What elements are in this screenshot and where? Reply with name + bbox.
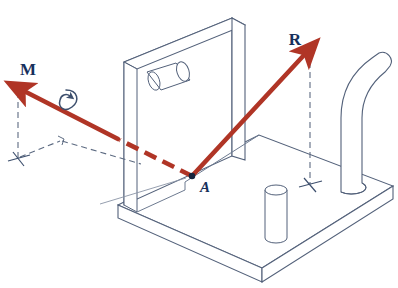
moment-curl-arrow (60, 90, 77, 109)
tick-marker-left (8, 152, 30, 166)
figure-canvas: M R A (0, 0, 398, 288)
bent-rod (341, 52, 391, 194)
moment-horizontal-trace (20, 141, 60, 157)
moment-curl-path (60, 90, 77, 109)
bracket-assembly (100, 18, 393, 282)
short-post-body (265, 190, 287, 243)
vertical-plate-side-face (232, 18, 245, 160)
trace-corner-tick (58, 136, 64, 145)
bent-rod-body (341, 52, 391, 194)
mechanics-figure: M R A (0, 0, 398, 288)
point-a-marker (189, 173, 196, 180)
point-a-label: A (199, 179, 210, 195)
moment-vector-shaft (24, 91, 118, 139)
resultant-vector-label: R (289, 30, 302, 49)
short-post (265, 185, 287, 243)
vertical-plate-left-edge (124, 62, 137, 212)
moment-vector-label: M (20, 60, 36, 79)
short-post-top-cap (265, 185, 287, 195)
